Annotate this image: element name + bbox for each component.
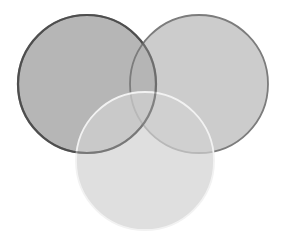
venn-diagram-canvas <box>0 0 289 241</box>
venn-diagram <box>0 0 289 241</box>
venn-circle-bottom <box>76 92 214 230</box>
